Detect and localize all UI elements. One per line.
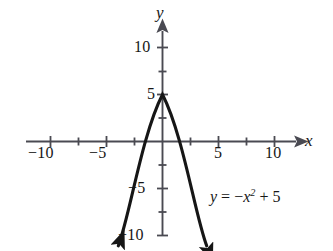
equation-exponent: 2 bbox=[250, 187, 255, 198]
equation-constant: 5 bbox=[272, 188, 280, 205]
x-tick-label-neg5: −5 bbox=[89, 145, 106, 161]
x-tick-label-pos5: 5 bbox=[214, 145, 222, 161]
y-tick-label-pos5: 5 bbox=[147, 86, 155, 102]
x-tick-label-pos10: 10 bbox=[265, 145, 281, 161]
coordinate-plane-svg bbox=[0, 0, 333, 251]
y-tick-label-pos10: 10 bbox=[134, 39, 150, 55]
y-axis-label: y bbox=[156, 4, 164, 21]
graph-figure: x y −10 −5 5 10 10 5 −5 −10 y=−x2+5 bbox=[0, 0, 333, 251]
y-tick-label-neg5: −5 bbox=[128, 180, 145, 196]
x-axis-label: x bbox=[305, 132, 313, 149]
equation-annotation: y=−x2+5 bbox=[210, 189, 280, 205]
y-tick-label-neg10: −10 bbox=[118, 227, 144, 243]
equation-lhs: y bbox=[210, 188, 217, 205]
x-tick-label-neg10: −10 bbox=[28, 145, 54, 161]
equation-equals: = bbox=[221, 188, 230, 205]
equation-minus-sign: − bbox=[234, 188, 243, 205]
equation-plus-sign: + bbox=[259, 188, 268, 205]
